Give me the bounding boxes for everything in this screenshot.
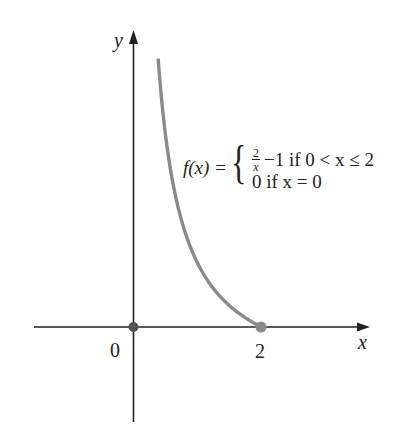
plot-area <box>0 0 404 435</box>
formula-case-2: 0 if x = 0 <box>252 171 322 193</box>
formula-brace: { <box>231 140 246 186</box>
formula-case-1: 2 x −1 if 0 < x ≤ 2 <box>252 147 374 173</box>
function-curve <box>158 59 261 327</box>
x-axis-label: x <box>358 332 367 352</box>
case-1-condition: −1 if 0 < x ≤ 2 <box>264 149 374 171</box>
fraction-2-over-x: 2 x <box>252 147 260 173</box>
y-axis-label: y <box>114 30 123 50</box>
y-axis-arrow-icon <box>129 30 138 44</box>
origin-point <box>129 322 139 332</box>
x-tick-label-2: 2 <box>255 341 265 361</box>
endpoint-x2 <box>256 322 267 333</box>
origin-tick-label: 0 <box>110 340 120 360</box>
formula-lhs: f(x) = <box>183 157 227 179</box>
